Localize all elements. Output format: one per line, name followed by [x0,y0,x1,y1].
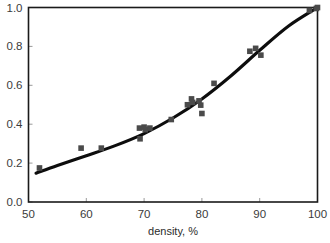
y-tick-label: 0.6 [7,79,23,91]
x-tick-label: 90 [253,208,266,220]
data-point-marker [307,8,313,14]
y-tick-label: 0.8 [7,40,23,52]
data-point-marker [99,145,105,151]
scatter-plot-svg: 0.00.20.40.60.81.0 5060708090100 density… [0,0,330,243]
data-point-marker [147,125,153,131]
x-tick-label: 100 [308,208,327,220]
data-point-marker [37,165,43,171]
data-point-marker [258,52,264,58]
data-point-marker [247,48,253,54]
x-tick-label: 80 [196,208,209,220]
data-point-marker [185,102,191,108]
y-tick-label: 1.0 [7,2,23,14]
data-point-marker [211,81,217,87]
x-axis-title: density, % [148,225,198,237]
x-tick-label: 70 [138,208,151,220]
data-point-marker [253,46,259,52]
chart-figure: 0.00.20.40.60.81.0 5060708090100 density… [0,0,330,243]
data-point-marker [137,136,143,142]
y-tick-label: 0.0 [7,196,23,208]
x-tick-label: 60 [80,208,93,220]
data-point-marker [168,117,174,123]
data-point-marker [198,102,204,108]
x-tick-label: 50 [22,208,35,220]
data-point-marker [315,5,321,11]
y-tick-label: 0.4 [7,118,24,130]
data-point-marker [199,111,205,117]
data-point-marker [78,145,84,151]
data-point-marker [190,100,196,106]
y-tick-label: 0.2 [7,157,23,169]
